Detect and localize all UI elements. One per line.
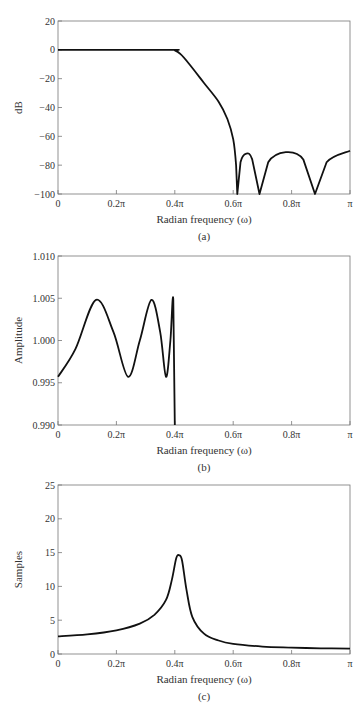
x-tick-label: 0.4π: [166, 658, 184, 669]
y-tick-label: −20: [39, 73, 55, 84]
y-axis-label: dB: [12, 101, 24, 114]
y-tick-label: −80: [39, 160, 55, 171]
x-tick-label: π: [347, 429, 352, 440]
x-tick-label: 0.8π: [283, 429, 301, 440]
figure-caption: (b): [198, 461, 211, 474]
y-tick-label: 1.000: [33, 335, 56, 346]
y-tick-label: 1.005: [33, 293, 56, 304]
x-tick-label: 0.2π: [108, 198, 126, 209]
series-line-c: [58, 555, 350, 649]
y-tick-label: 0: [50, 649, 55, 660]
x-tick-label: 0.6π: [224, 658, 242, 669]
series-line-b: [58, 297, 175, 425]
y-tick-label: 0.995: [33, 377, 56, 388]
y-tick-label: 15: [45, 547, 55, 558]
x-tick-label: 0.8π: [283, 658, 301, 669]
y-tick-label: 0.990: [33, 420, 56, 431]
series-line-a: [58, 50, 350, 194]
y-tick-label: 20: [45, 16, 55, 27]
y-tick-label: −60: [39, 131, 55, 142]
x-tick-label: π: [347, 658, 352, 669]
x-tick-label: 0.2π: [108, 429, 126, 440]
y-tick-label: 1.010: [33, 251, 56, 262]
x-tick-label: 0: [56, 429, 61, 440]
figure-caption: (c): [198, 690, 211, 703]
x-tick-label: 0.2π: [108, 658, 126, 669]
y-axis-label: Amplitude: [12, 317, 24, 364]
y-tick-label: 5: [50, 615, 55, 626]
figure-caption: (a): [198, 230, 211, 243]
x-axis-label: Radian frequency (ω): [156, 213, 252, 226]
y-tick-label: 0: [50, 44, 55, 55]
plot-frame-c: [58, 485, 350, 654]
x-tick-label: 0.6π: [224, 429, 242, 440]
y-tick-label: 25: [45, 480, 55, 491]
x-tick-label: 0.6π: [224, 198, 242, 209]
x-axis-label: Radian frequency (ω): [156, 444, 252, 457]
x-tick-label: π: [347, 198, 352, 209]
x-tick-label: 0: [56, 658, 61, 669]
y-tick-label: 20: [45, 513, 55, 524]
y-tick-label: 10: [45, 581, 55, 592]
y-axis-label: Samples: [12, 551, 24, 588]
plot-frame-b: [58, 256, 350, 425]
x-tick-label: 0.8π: [283, 198, 301, 209]
x-tick-label: 0.4π: [166, 429, 184, 440]
y-tick-label: −40: [39, 102, 55, 113]
x-axis-label: Radian frequency (ω): [156, 673, 252, 686]
x-tick-label: 0.4π: [166, 198, 184, 209]
y-tick-label: −100: [34, 189, 55, 200]
figure: 00.2π0.4π0.6π0.8ππ200−20−40−60−80−100Rad…: [0, 0, 363, 717]
x-tick-label: 0: [56, 198, 61, 209]
